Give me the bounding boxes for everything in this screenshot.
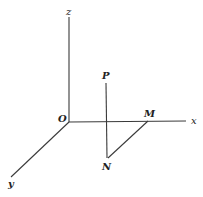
x-axis [69, 121, 186, 122]
x-axis-label: x [191, 115, 197, 126]
y-axis [11, 122, 69, 177]
point-p-label: P [101, 70, 110, 81]
z-axis-label: z [65, 6, 72, 17]
segment-pn [106, 83, 107, 158]
origin-label: O [58, 113, 67, 124]
segment-nm [108, 121, 148, 158]
point-n-label: N [101, 161, 112, 172]
coordinate-diagram: z x y O P M N [0, 0, 203, 197]
y-axis-label: y [7, 178, 15, 189]
point-m-label: M [143, 108, 156, 119]
